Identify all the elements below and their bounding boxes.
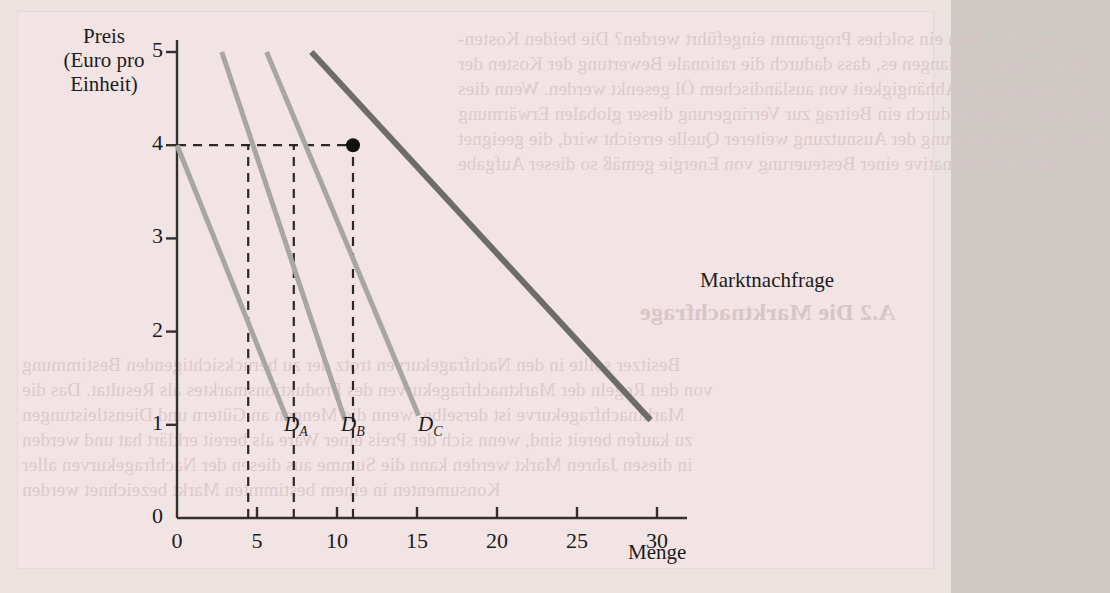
y-axis-title-line3: Einheit) [38,72,170,96]
series-line-d-c [267,52,419,415]
x-tick-label: 25 [557,528,597,554]
y-tick-label: 2 [135,317,163,343]
curve-label-db-subscript: B [356,424,365,439]
series-line-d-a [177,145,287,420]
curve-label-da-subscript: A [299,424,308,439]
x-tick-label: 30 [637,528,677,554]
y-tick-label: 4 [135,130,163,156]
series-line-d-b [222,52,345,420]
x-tick-label: 15 [397,528,437,554]
curve-label-db: DB [341,412,365,440]
curve-label-da-letter: D [284,412,299,436]
y-tick-label: 0 [135,503,163,529]
x-tick-label: 10 [317,528,357,554]
curve-label-dc-subscript: C [433,424,442,439]
x-tick-label: 5 [237,528,277,554]
y-tick-label: 3 [135,223,163,249]
series-line-marktnachfrage [311,52,650,420]
curve-label-da: DA [284,412,308,440]
curve-label-dc: DC [418,412,443,440]
y-tick-label: 5 [135,37,163,63]
x-tick-label: 20 [477,528,517,554]
marked-point [346,138,360,152]
x-tick-label: 0 [157,528,197,554]
market-demand-label: Marktnachfrage [700,268,834,293]
y-tick-label: 1 [135,410,163,436]
curve-label-db-letter: D [341,412,356,436]
curve-label-dc-letter: D [418,412,433,436]
